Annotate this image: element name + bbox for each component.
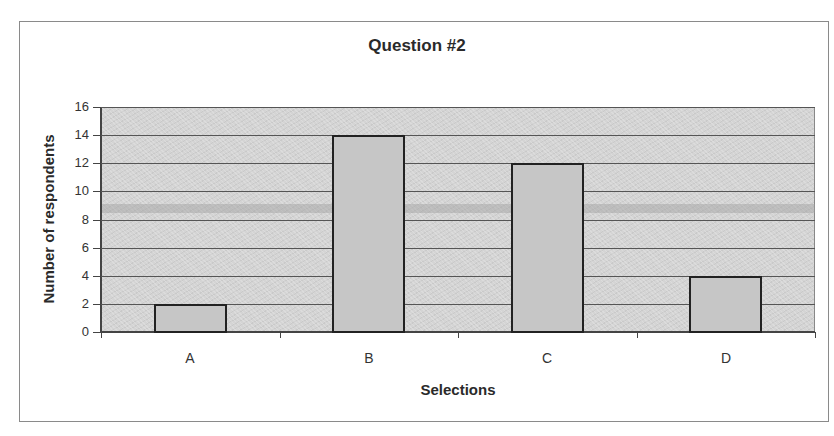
y-tick-label: 0	[60, 324, 89, 339]
x-tick	[637, 332, 638, 338]
y-tick-label: 8	[60, 212, 89, 227]
y-tick	[93, 220, 101, 221]
y-tick	[93, 107, 101, 108]
x-tick-label: B	[339, 350, 399, 366]
gridline	[101, 107, 815, 108]
chart-title: Question #2	[0, 36, 834, 56]
y-tick	[93, 304, 101, 305]
y-tick-label: 4	[60, 268, 89, 283]
y-tick-label: 2	[60, 296, 89, 311]
x-tick	[815, 332, 816, 338]
gridline	[101, 163, 815, 164]
y-tick-label: 6	[60, 240, 89, 255]
gridline	[101, 220, 815, 221]
y-tick-label: 10	[60, 183, 89, 198]
y-axis-title: Number of respondents	[40, 134, 57, 303]
x-tick	[458, 332, 459, 338]
y-tick	[93, 191, 101, 192]
bar-d	[689, 276, 762, 333]
y-tick	[93, 276, 101, 277]
x-tick-label: D	[696, 350, 756, 366]
x-axis-title: Selections	[101, 381, 815, 398]
y-tick	[93, 135, 101, 136]
y-tick	[93, 332, 101, 333]
x-tick	[101, 332, 102, 338]
bar-c	[511, 163, 584, 333]
scan-artifact-band	[101, 204, 815, 213]
y-tick-label: 16	[60, 99, 89, 114]
gridline	[101, 248, 815, 249]
gridline	[101, 191, 815, 192]
bar-b	[332, 135, 405, 333]
y-tick	[93, 163, 101, 164]
x-tick-label: A	[160, 350, 220, 366]
y-tick-label: 12	[60, 155, 89, 170]
y-tick	[93, 248, 101, 249]
y-tick-label: 14	[60, 127, 89, 142]
bar-a	[154, 304, 227, 333]
x-tick	[280, 332, 281, 338]
x-tick-label: C	[517, 350, 577, 366]
gridline	[101, 135, 815, 136]
